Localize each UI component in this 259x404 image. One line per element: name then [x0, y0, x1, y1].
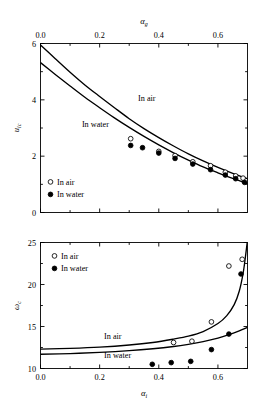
legend-label-in-water: In water — [61, 264, 88, 273]
datapoint-in-water — [156, 151, 161, 156]
curve-in-air — [41, 45, 248, 179]
x-axis-title: αi — [141, 388, 148, 399]
curve-in-water — [41, 327, 248, 354]
datapoint-in-air — [190, 339, 195, 344]
datapoint-in-water — [169, 360, 174, 365]
datapoint-in-water — [239, 272, 244, 277]
bottom-chart-svg: 0.00.20.40.610152025αiωcIn airIn waterIn… — [0, 228, 259, 404]
y-tick-label: 6 — [32, 40, 36, 49]
x-tick-label: 0.0 — [35, 31, 45, 40]
curve-annotation: In water — [104, 351, 131, 360]
curve-in-water — [41, 63, 248, 184]
legend-marker-in-water — [48, 192, 53, 197]
x-tick-label: 0.6 — [213, 31, 223, 40]
datapoint-in-water — [173, 156, 178, 161]
datapoint-in-water — [227, 332, 232, 337]
legend-marker-in-water — [52, 266, 57, 271]
legend-marker-in-air — [48, 180, 53, 185]
chart-panel-top: 0.00.20.40.60246αguicIn airIn waterIn ai… — [0, 0, 259, 228]
datapoint-in-water — [233, 176, 238, 181]
x-axis-title-sub: i — [145, 393, 147, 399]
x-tick-label: 0.4 — [154, 31, 164, 40]
y-tick-label: 25 — [28, 239, 36, 248]
y-axis-title-sub: c — [16, 301, 22, 304]
datapoint-in-water — [190, 162, 195, 167]
curve-annotation: In air — [138, 94, 156, 103]
curve-annotation: In water — [82, 120, 109, 129]
datapoint-in-water — [209, 347, 214, 352]
datapoint-in-water — [242, 180, 247, 185]
x-axis-title: αg — [140, 16, 148, 27]
datapoint-in-air — [209, 320, 214, 325]
datapoint-in-water — [150, 362, 155, 367]
datapoint-in-air — [227, 264, 232, 269]
datapoint-in-water — [223, 173, 228, 178]
x-axis-title-sub: g — [145, 21, 148, 27]
datapoint-in-water — [140, 145, 145, 150]
y-tick-label: 2 — [32, 152, 36, 161]
chart-panel-bottom: 0.00.20.40.610152025αiωcIn airIn waterIn… — [0, 228, 259, 404]
x-tick-label: 0.6 — [213, 373, 223, 382]
figure-root: 0.00.20.40.60246αguicIn airIn waterIn ai… — [0, 0, 259, 404]
legend-label-in-air: In air — [61, 252, 79, 261]
datapoint-in-air — [171, 340, 176, 345]
legend-marker-in-air — [52, 254, 57, 259]
y-axis-title: uic — [11, 123, 22, 132]
datapoint-in-air — [128, 136, 133, 141]
datapoint-in-water — [188, 359, 193, 364]
x-tick-label: 0.2 — [95, 373, 105, 382]
curve-annotation: In air — [104, 332, 122, 341]
y-tick-label: 15 — [28, 323, 36, 332]
y-tick-label: 10 — [28, 365, 36, 374]
data-layer: In airIn water — [41, 45, 248, 185]
data-layer: In airIn water — [41, 243, 248, 367]
x-tick-label: 0.0 — [35, 373, 45, 382]
y-tick-label: 20 — [28, 281, 36, 290]
x-tick-label: 0.2 — [95, 31, 105, 40]
legend-label-in-air: In air — [57, 178, 75, 187]
y-axis-title-sub: ic — [16, 123, 22, 128]
y-tick-label: 4 — [32, 96, 36, 105]
top-chart-svg: 0.00.20.40.60246αguicIn airIn waterIn ai… — [0, 0, 259, 228]
y-tick-label: 0 — [32, 209, 36, 218]
y-axis-title: ωc — [11, 301, 22, 310]
x-tick-label: 0.4 — [154, 373, 164, 382]
datapoint-in-water — [128, 143, 133, 148]
datapoint-in-air — [240, 257, 245, 262]
datapoint-in-water — [208, 167, 213, 172]
legend-label-in-water: In water — [57, 190, 84, 199]
